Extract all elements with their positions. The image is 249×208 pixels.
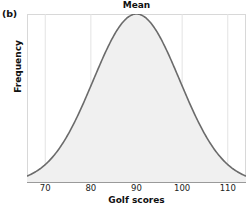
y-axis-label: Frequency [14,27,23,107]
x-tick-90: 90 [131,184,142,193]
chart-title: Mean [27,1,246,10]
plot-area [27,14,246,183]
panel-label: (b) [2,9,17,19]
x-tick-110: 110 [220,184,236,193]
normal-distribution-chart [27,14,246,183]
x-tick-70: 70 [40,184,51,193]
x-axis-label: Golf scores [27,196,246,205]
figure: (b) Mean Frequency 708090100110 Golf sco… [0,0,249,208]
x-tick-80: 80 [85,184,96,193]
x-tick-100: 100 [174,184,190,193]
distribution-area [27,14,246,183]
